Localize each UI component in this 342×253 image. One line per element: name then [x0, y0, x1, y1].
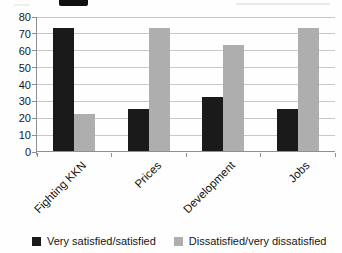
bar-development-satisfied	[202, 97, 223, 151]
y-axis-tick-40	[32, 84, 36, 85]
x-axis-tick-0	[37, 153, 38, 157]
scan-artifact-smudge-left	[14, 4, 30, 6]
bar-jobs-dissatisfied	[298, 28, 319, 151]
gridline-80	[37, 17, 335, 18]
y-axis-tick-20	[32, 118, 36, 119]
scan-artifact-mark	[59, 0, 88, 6]
bar-prices-dissatisfied	[149, 28, 170, 151]
y-axis-tick-30	[32, 101, 36, 102]
y-axis-label-0: 0	[5, 146, 31, 158]
bar-chart-figure: 01020304050607080 Fighting KKNPricesDeve…	[0, 0, 342, 253]
bar-prices-satisfied	[128, 109, 149, 151]
y-axis-label-50: 50	[5, 62, 31, 74]
legend-label-satisfied: Very satisfied/satisfied	[47, 235, 156, 247]
chart-legend: Very satisfied/satisfied Dissatisfied/ve…	[32, 235, 326, 247]
y-axis-label-70: 70	[5, 28, 31, 40]
legend-label-dissatisfied: Dissatisfied/very dissatisfied	[189, 235, 327, 247]
x-axis-tick-3	[260, 153, 261, 157]
x-axis-label-development: Development	[181, 159, 237, 215]
x-axis-tick-1	[111, 153, 112, 157]
y-axis-label-80: 80	[5, 11, 31, 23]
y-axis-label-20: 20	[5, 112, 31, 124]
x-axis-tick-2	[186, 153, 187, 157]
x-axis-tick-4	[335, 153, 336, 157]
y-axis-tick-50	[32, 67, 36, 68]
y-axis-tick-10	[32, 135, 36, 136]
y-axis-label-30: 30	[5, 95, 31, 107]
legend-swatch-dissatisfied-icon	[174, 237, 183, 246]
gridline-70	[37, 33, 335, 34]
gridline-40	[37, 84, 335, 85]
scan-artifact-smudge-right	[236, 3, 330, 5]
bar-fighting-kkn-dissatisfied	[74, 114, 95, 151]
x-axis-line	[36, 151, 335, 152]
legend-item-satisfied: Very satisfied/satisfied	[32, 235, 156, 247]
x-axis-label-fighting-kkn: Fighting KKN	[32, 159, 88, 215]
bar-development-dissatisfied	[223, 45, 244, 151]
x-axis-label-jobs: Jobs	[287, 159, 313, 185]
y-axis-tick-60	[32, 50, 36, 51]
plot-area	[37, 17, 335, 152]
y-axis-tick-80	[32, 17, 36, 18]
gridline-60	[37, 50, 335, 51]
bar-fighting-kkn-satisfied	[53, 28, 74, 151]
y-axis-label-60: 60	[5, 45, 31, 57]
gridline-50	[37, 67, 335, 68]
gridline-30	[37, 101, 335, 102]
y-axis-label-10: 10	[5, 129, 31, 141]
y-axis-tick-0	[32, 152, 36, 153]
legend-item-dissatisfied: Dissatisfied/very dissatisfied	[174, 235, 327, 247]
x-axis-label-prices: Prices	[132, 159, 163, 190]
bar-jobs-satisfied	[277, 109, 298, 151]
y-axis-tick-70	[32, 33, 36, 34]
legend-swatch-satisfied-icon	[32, 237, 41, 246]
y-axis-label-40: 40	[5, 79, 31, 91]
